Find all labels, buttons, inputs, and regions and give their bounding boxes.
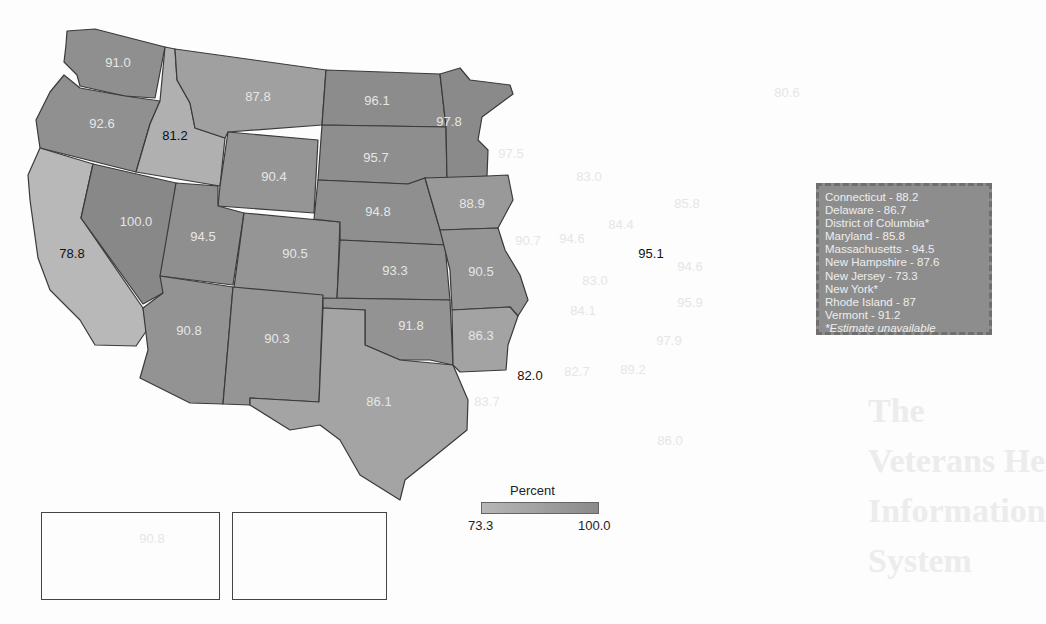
- callout-footnote: *Estimate unavailable: [825, 322, 983, 335]
- label-la: 83.7: [474, 394, 499, 409]
- label-ca: 78.8: [59, 246, 84, 261]
- label-ak: 90.8: [139, 531, 164, 546]
- label-mi: 83.0: [576, 169, 601, 184]
- legend-title: Percent: [510, 483, 555, 498]
- label-ky: 83.0: [582, 273, 607, 288]
- label-sd: 95.7: [363, 150, 388, 165]
- label-oh: 84.4: [608, 217, 633, 232]
- label-ut: 94.5: [190, 229, 215, 244]
- callout-line: Connecticut - 88.2: [825, 191, 983, 204]
- label-ne: 94.8: [365, 204, 390, 219]
- label-tx: 86.1: [366, 394, 391, 409]
- callout-line: New Hampshire - 87.6: [825, 256, 983, 269]
- label-mn: 97.8: [436, 114, 461, 129]
- label-nd: 96.1: [364, 93, 389, 108]
- label-nm: 90.3: [264, 331, 289, 346]
- legend-min-label: 73.3: [468, 518, 493, 533]
- label-id: 81.2: [162, 128, 187, 143]
- label-ga: 89.2: [620, 362, 645, 377]
- callout-line: Massachusetts - 94.5: [825, 243, 983, 256]
- label-me: 80.6: [774, 85, 799, 100]
- label-co: 90.5: [282, 246, 307, 261]
- callout-line: Vermont - 91.2: [825, 309, 983, 322]
- callout-line: District of Columbia*: [825, 217, 983, 230]
- callout-line: New Jersey - 73.3: [825, 270, 983, 283]
- label-mo: 90.5: [468, 264, 493, 279]
- label-wv: 95.1: [638, 246, 663, 261]
- northeast-callout: Connecticut - 88.2 Delaware - 86.7 Distr…: [816, 183, 992, 335]
- label-or: 92.6: [89, 116, 114, 131]
- label-wi: 97.5: [498, 146, 523, 161]
- hawaii-inset: [232, 512, 387, 600]
- callout-line: New York*: [825, 283, 983, 296]
- label-wa: 91.0: [105, 55, 130, 70]
- label-il: 90.7: [515, 233, 540, 248]
- label-tn: 84.1: [570, 303, 595, 318]
- state-new-mexico[interactable]: [223, 287, 323, 405]
- callout-line: Delaware - 86.7: [825, 204, 983, 217]
- label-mt: 87.8: [245, 89, 270, 104]
- label-ia: 88.9: [459, 196, 484, 211]
- label-va: 94.6: [677, 259, 702, 274]
- label-az: 90.8: [176, 323, 201, 338]
- label-nv: 100.0: [120, 214, 153, 229]
- label-ks: 93.3: [382, 263, 407, 278]
- label-sc: 97.9: [656, 333, 681, 348]
- label-in: 94.6: [559, 231, 584, 246]
- callout-line: Maryland - 85.8: [825, 230, 983, 243]
- label-pa: 85.8: [674, 196, 699, 211]
- label-wy: 90.4: [261, 169, 286, 184]
- label-nc: 95.9: [677, 295, 702, 310]
- legend-gradient-bar: [481, 502, 599, 514]
- callout-line: Rhode Island - 87: [825, 296, 983, 309]
- alaska-inset: [41, 512, 220, 600]
- label-fl: 86.0: [657, 433, 682, 448]
- legend-max-label: 100.0: [578, 518, 611, 533]
- label-ok: 91.8: [398, 318, 423, 333]
- label-ms: 82.0: [517, 368, 542, 383]
- label-ar: 86.3: [468, 328, 493, 343]
- label-al: 82.7: [564, 364, 589, 379]
